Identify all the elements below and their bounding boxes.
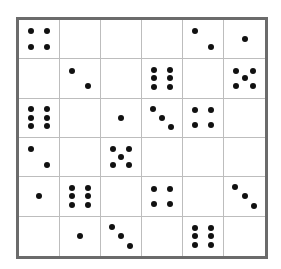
grid-cell-r6-c5[interactable] bbox=[183, 217, 224, 256]
grid-cell-r6-c1[interactable] bbox=[19, 217, 60, 256]
die-pip-six-icon bbox=[69, 193, 75, 199]
grid-cell-r3-c3[interactable] bbox=[101, 99, 142, 138]
die-pip-two-icon bbox=[85, 83, 91, 89]
grid-cell-r3-c1[interactable] bbox=[19, 99, 60, 138]
die-pip-six-icon bbox=[28, 115, 34, 121]
die-pip-six-icon bbox=[44, 106, 50, 112]
die-pip-six-icon bbox=[151, 84, 157, 90]
die-pip-four-icon bbox=[28, 44, 34, 50]
die-pip-two-icon bbox=[69, 68, 75, 74]
die-pip-three-icon bbox=[109, 224, 115, 230]
die-pip-two-icon bbox=[44, 162, 50, 168]
die-pip-six-icon bbox=[69, 202, 75, 208]
die-pip-four-icon bbox=[208, 122, 214, 128]
grid-cell-r4-c4[interactable] bbox=[142, 138, 183, 177]
die-pip-five-icon bbox=[110, 146, 116, 152]
die-pip-six-icon bbox=[192, 233, 198, 239]
grid-cell-r1-c5[interactable] bbox=[183, 20, 224, 59]
grid-cell-r5-c5[interactable] bbox=[183, 177, 224, 216]
grid-cell-r1-c1[interactable] bbox=[19, 20, 60, 59]
die-pip-four-icon bbox=[44, 28, 50, 34]
die-pip-six-icon bbox=[85, 202, 91, 208]
die-pip-four-icon bbox=[167, 201, 173, 207]
die-pip-six-icon bbox=[69, 185, 75, 191]
grid-cell-r4-c2[interactable] bbox=[60, 138, 101, 177]
die-pip-four-icon bbox=[192, 122, 198, 128]
die-pip-three-icon bbox=[232, 184, 238, 190]
die-pip-five-icon bbox=[250, 83, 256, 89]
die-pip-six-icon bbox=[85, 193, 91, 199]
grid-cell-r2-c4[interactable] bbox=[142, 59, 183, 98]
grid-cell-r1-c6[interactable] bbox=[224, 20, 265, 59]
die-pip-three-icon bbox=[159, 115, 165, 121]
die-pip-six-icon bbox=[208, 242, 214, 248]
grid-cell-r5-c3[interactable] bbox=[101, 177, 142, 216]
die-pip-one-icon bbox=[242, 36, 248, 42]
die-pip-one-icon bbox=[77, 233, 83, 239]
grid-cell-r3-c2[interactable] bbox=[60, 99, 101, 138]
die-pip-three-icon bbox=[251, 203, 257, 209]
die-pip-five-icon bbox=[233, 68, 239, 74]
die-pip-three-icon bbox=[242, 193, 248, 199]
die-pip-six-icon bbox=[44, 123, 50, 129]
die-pip-five-icon bbox=[126, 146, 132, 152]
die-pip-six-icon bbox=[192, 242, 198, 248]
grid-cell-r4-c1[interactable] bbox=[19, 138, 60, 177]
die-pip-two-icon bbox=[192, 28, 198, 34]
die-pip-five-icon bbox=[118, 154, 124, 160]
die-pip-six-icon bbox=[28, 123, 34, 129]
die-pip-one-icon bbox=[118, 115, 124, 121]
grid-cell-r5-c2[interactable] bbox=[60, 177, 101, 216]
die-pip-six-icon bbox=[28, 106, 34, 112]
grid-cell-r2-c3[interactable] bbox=[101, 59, 142, 98]
grid-cell-r2-c5[interactable] bbox=[183, 59, 224, 98]
die-pip-four-icon bbox=[28, 28, 34, 34]
grid-cell-r2-c1[interactable] bbox=[19, 59, 60, 98]
die-pip-two-icon bbox=[208, 44, 214, 50]
grid-cell-r6-c2[interactable] bbox=[60, 217, 101, 256]
grid-cell-r5-c4[interactable] bbox=[142, 177, 183, 216]
die-pip-six-icon bbox=[151, 67, 157, 73]
die-pip-four-icon bbox=[208, 107, 214, 113]
die-pip-four-icon bbox=[151, 201, 157, 207]
die-pip-three-icon bbox=[118, 233, 124, 239]
die-pip-five-icon bbox=[110, 162, 116, 168]
die-pip-four-icon bbox=[192, 107, 198, 113]
die-pip-six-icon bbox=[167, 75, 173, 81]
grid-cell-r6-c3[interactable] bbox=[101, 217, 142, 256]
die-pip-four-icon bbox=[167, 186, 173, 192]
die-pip-six-icon bbox=[85, 185, 91, 191]
die-pip-five-icon bbox=[250, 68, 256, 74]
die-pip-two-icon bbox=[28, 146, 34, 152]
die-pip-four-icon bbox=[151, 186, 157, 192]
die-pip-six-icon bbox=[151, 75, 157, 81]
grid-cell-r1-c4[interactable] bbox=[142, 20, 183, 59]
grid-cell-r4-c6[interactable] bbox=[224, 138, 265, 177]
grid-cell-r2-c6[interactable] bbox=[224, 59, 265, 98]
grid-cell-r5-c6[interactable] bbox=[224, 177, 265, 216]
grid-cell-r6-c6[interactable] bbox=[224, 217, 265, 256]
die-pip-five-icon bbox=[242, 75, 248, 81]
die-pip-six-icon bbox=[208, 225, 214, 231]
grid-cell-r2-c2[interactable] bbox=[60, 59, 101, 98]
die-pip-six-icon bbox=[44, 115, 50, 121]
grid-cell-r3-c4[interactable] bbox=[142, 99, 183, 138]
grid-cell-r6-c4[interactable] bbox=[142, 217, 183, 256]
grid-cell-r5-c1[interactable] bbox=[19, 177, 60, 216]
grid-cell-r1-c2[interactable] bbox=[60, 20, 101, 59]
die-pip-three-icon bbox=[168, 124, 174, 130]
die-pip-three-icon bbox=[150, 106, 156, 112]
grid-cell-r4-c5[interactable] bbox=[183, 138, 224, 177]
grid-cell-r3-c5[interactable] bbox=[183, 99, 224, 138]
grid-cell-r3-c6[interactable] bbox=[224, 99, 265, 138]
grid-cell-r1-c3[interactable] bbox=[101, 20, 142, 59]
die-pip-six-icon bbox=[167, 84, 173, 90]
die-pip-one-icon bbox=[36, 193, 42, 199]
die-pip-six-icon bbox=[208, 233, 214, 239]
grid-cell-r4-c3[interactable] bbox=[101, 138, 142, 177]
dice-grid-board bbox=[16, 17, 268, 259]
die-pip-three-icon bbox=[127, 243, 133, 249]
die-pip-six-icon bbox=[167, 67, 173, 73]
die-pip-five-icon bbox=[126, 162, 132, 168]
die-pip-five-icon bbox=[233, 83, 239, 89]
